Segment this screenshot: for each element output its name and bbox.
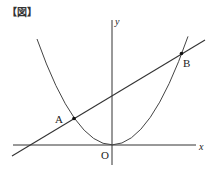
coordinate-diagram: y x O A B xyxy=(0,0,214,171)
point-b-marker xyxy=(180,52,184,56)
y-axis-label: y xyxy=(114,16,120,27)
origin-label: O xyxy=(101,149,109,161)
point-a-label: A xyxy=(55,113,63,125)
x-axis-label: x xyxy=(198,141,204,152)
point-a-marker xyxy=(72,117,76,121)
line-ab xyxy=(12,40,205,156)
point-b-label: B xyxy=(183,57,190,69)
